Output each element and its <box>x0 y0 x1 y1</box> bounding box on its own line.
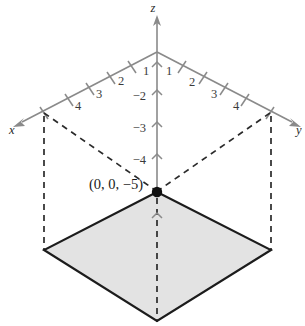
y-tick-label-1: 1 <box>166 64 172 78</box>
figure-canvas: z x y 1 2 3 4 1 2 3 4 −2 −3 −4 (0, 0, −5… <box>0 0 305 326</box>
x-tick-label-2: 2 <box>118 74 124 88</box>
point-marker-dot <box>152 187 162 197</box>
z-tick-label-minus4: −4 <box>133 153 147 167</box>
y-axis-label: y <box>294 123 302 137</box>
labels-group: z x y 1 2 3 4 1 2 3 4 −2 −3 −4 (0, 0, −5… <box>8 1 302 193</box>
x-axis-arrowhead-icon <box>13 118 25 127</box>
coordinate-diagram-svg: z x y 1 2 3 4 1 2 3 4 −2 −3 −4 (0, 0, −5… <box>0 0 305 326</box>
y-axis <box>157 52 301 127</box>
z-tick-label-minus2: −2 <box>133 89 146 103</box>
x-tick-label-4: 4 <box>75 99 82 113</box>
x-axis-label: x <box>8 123 15 137</box>
x-tick-label-1: 1 <box>143 64 149 78</box>
z-axis-label: z <box>150 1 156 15</box>
dashed-y-to-point <box>159 113 270 190</box>
y-tick-label-2: 2 <box>189 75 195 89</box>
y-tick-label-4: 4 <box>233 99 240 113</box>
y-tick-label-3: 3 <box>211 87 217 101</box>
z-tick-label-minus3: −3 <box>133 121 146 135</box>
point-coordinate-label: (0, 0, −5) <box>89 176 143 193</box>
x-tick-label-3: 3 <box>96 87 102 101</box>
